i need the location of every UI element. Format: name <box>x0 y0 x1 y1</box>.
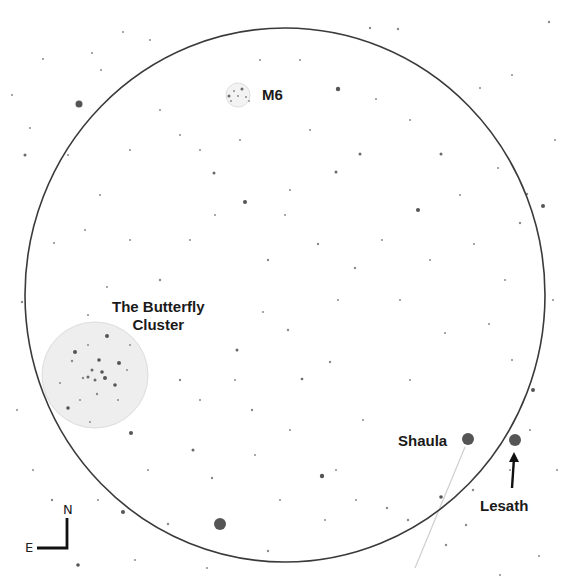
star-icon <box>439 495 443 499</box>
star-icon <box>87 344 89 346</box>
star-icon <box>67 154 69 156</box>
star-icon <box>87 376 90 379</box>
star-icon <box>211 477 213 479</box>
star-icon <box>556 469 558 471</box>
star-icon <box>84 229 86 231</box>
east-label: E <box>25 541 33 555</box>
star-icon <box>129 149 131 151</box>
star-icon <box>147 469 149 471</box>
star-icon <box>21 301 23 303</box>
star-icon <box>89 421 91 423</box>
star-icon <box>105 334 109 338</box>
star-icon <box>245 96 247 98</box>
star-icon <box>29 127 31 129</box>
star-icon <box>529 429 531 431</box>
star-icon <box>126 369 128 371</box>
star-icon <box>79 399 81 401</box>
star-icon <box>267 259 269 261</box>
star-icon <box>213 172 216 175</box>
star-icon <box>409 379 411 381</box>
star-icon <box>488 323 490 325</box>
star-icon <box>167 523 169 525</box>
star-icon <box>289 189 291 191</box>
star-icon <box>159 109 161 111</box>
star-icon <box>199 149 201 151</box>
star-icon <box>440 153 443 156</box>
star-icon <box>230 100 232 102</box>
star-icon <box>359 153 362 156</box>
star-icon <box>329 361 331 363</box>
star-icon <box>511 74 513 76</box>
star-icon <box>71 360 73 362</box>
star-icon <box>233 90 235 92</box>
star-icon <box>317 243 319 245</box>
star-icon <box>248 100 250 102</box>
shaula-label: Shaula <box>398 432 447 450</box>
star-icon <box>335 469 337 471</box>
star-icon <box>236 349 239 352</box>
star-icon <box>552 299 554 301</box>
star-icon <box>129 344 131 346</box>
star-icon <box>287 329 289 331</box>
star-icon <box>117 361 121 365</box>
star-icon <box>53 242 55 244</box>
star-icon <box>251 409 253 411</box>
star-icon <box>121 510 125 514</box>
star-icon <box>407 519 409 521</box>
star-icon <box>284 214 286 216</box>
star-icon <box>234 379 236 381</box>
star-icon <box>91 52 93 54</box>
star-icon <box>541 204 545 208</box>
butterfly-cluster-marker <box>42 322 148 428</box>
star-icon <box>87 314 89 316</box>
star-icon <box>429 259 431 261</box>
star-icon <box>73 350 77 354</box>
star-icon <box>179 134 181 136</box>
star-icon <box>254 454 256 456</box>
star-icon <box>106 286 108 288</box>
star-icon <box>113 383 117 387</box>
star-icon <box>100 370 104 374</box>
star-icon <box>444 332 446 334</box>
star-icon <box>16 409 18 411</box>
star-icon <box>32 469 34 471</box>
star-icon <box>122 31 124 33</box>
star-icon <box>179 379 181 381</box>
star-icon <box>129 239 131 241</box>
star-icon <box>262 311 264 313</box>
star-icon <box>192 449 195 452</box>
star-icon <box>531 388 535 392</box>
star-icon <box>324 519 326 521</box>
star-icon <box>76 101 83 108</box>
star-icon <box>259 59 261 61</box>
star-icon <box>206 567 208 569</box>
star-icon <box>82 377 84 379</box>
star-icon <box>301 378 304 381</box>
star-icon <box>289 429 291 431</box>
star-icon <box>369 27 371 29</box>
star-icon <box>96 393 98 395</box>
star-icon <box>199 399 201 401</box>
star-icon <box>397 28 399 30</box>
star-icon <box>309 129 311 131</box>
star-icon <box>239 139 241 141</box>
star-icon <box>354 267 356 269</box>
star-icon <box>94 379 97 382</box>
star-icon <box>519 222 521 224</box>
star-icon <box>336 87 340 91</box>
star-icon <box>499 574 501 576</box>
star-icon <box>59 382 61 384</box>
star-icon <box>465 524 467 526</box>
star-icon <box>129 431 133 435</box>
butterfly-cluster-label: The Butterfly Cluster <box>112 298 205 334</box>
star-icon <box>267 550 269 552</box>
butterfly-label-line1: The Butterfly <box>112 298 205 316</box>
shaula-star-icon <box>462 433 474 445</box>
star-icon <box>279 499 281 501</box>
star-icon <box>149 39 151 41</box>
star-icon <box>473 243 475 245</box>
star-icon <box>386 507 388 509</box>
star-icon <box>97 358 101 362</box>
star-icon <box>97 499 99 501</box>
star-icon <box>76 563 80 567</box>
